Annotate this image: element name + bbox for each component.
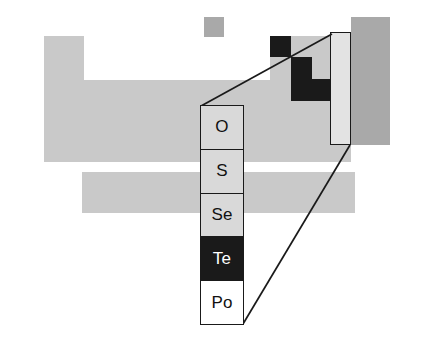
pt-cell-hydrogen [204,17,224,37]
element-cell-oxygen: O [201,106,243,150]
element-symbol-oxygen: O [215,117,228,137]
magnified-group-16-column: O S Se Te Po [200,105,244,325]
element-symbol-sulfur: S [216,161,228,181]
element-cell-tellurium: Te [201,237,243,281]
figure-canvas: O S Se Te Po [0,0,425,357]
pt-block-noble-gas-column [351,36,390,145]
group-16-highlight-column [330,32,351,145]
pt-cell-black-arsenic-row [291,79,312,101]
element-symbol-selenium: Se [211,205,232,225]
element-cell-selenium: Se [201,194,243,238]
pt-cell-black-silicon-row [291,57,312,79]
pt-cell-black-antimony-row [312,79,331,101]
pt-cell-black-boron-row [270,36,291,57]
pt-block-noble-gas-column-top [351,17,390,37]
element-cell-polonium: Po [201,281,243,324]
element-symbol-polonium: Po [211,293,232,313]
element-symbol-tellurium: Te [213,249,231,269]
pt-block-main-body-left [44,80,83,162]
element-cell-sulfur: S [201,150,243,194]
